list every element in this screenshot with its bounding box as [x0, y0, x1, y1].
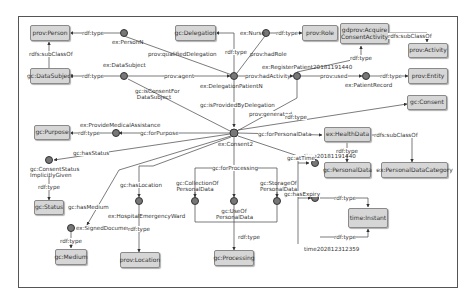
edge-label-subclassof-person: rdfs:subClassOf — [29, 51, 73, 57]
class-gc-datasubject[interactable]: gc:DataSubject — [30, 68, 70, 84]
class-gc-status[interactable]: gc:Status — [34, 200, 64, 215]
edge-label-rdf-type-processing: rdf:type — [238, 234, 260, 240]
class-time-instant[interactable]: time:Instant — [348, 208, 388, 228]
class-prov-location[interactable]: prov:Location — [120, 252, 160, 268]
node-signed — [68, 225, 75, 232]
class-ex-personaldatacategory[interactable]: ex:PersonalDataCategory — [381, 162, 448, 178]
class-gc-purpose[interactable]: gc:Purpose — [34, 125, 70, 140]
instance-use: gc:UseOf PersonalData — [216, 208, 252, 221]
class-gc-medium[interactable]: gc:Medium — [55, 249, 87, 265]
edge-label-rdf-type-medium: rdf:type — [60, 238, 82, 244]
node-patientrecord — [363, 73, 370, 80]
node-datasubject — [121, 73, 128, 80]
edge-label-rdf-type-personaldata: rdf:type — [336, 148, 358, 154]
edge-label-rdf-type-entity: rdf:type — [380, 73, 402, 79]
node-ward — [136, 198, 143, 205]
class-prov-entity[interactable]: prov:Entity — [408, 68, 448, 84]
instance-status: gc:ConsentStatus ImplicitlyGiven — [30, 166, 70, 179]
edge-label-rdf-type-datasubject: rdf:type — [82, 73, 104, 79]
instance-time2: time20281231235​9 — [304, 246, 359, 252]
edge-label-qualified-delegation: prov:qualifiedDelegation — [148, 51, 217, 57]
instance-patientrecord: ex:PatientRecord — [345, 82, 392, 88]
instance-delegation: ex:DelegationPatientN — [200, 83, 263, 89]
instance-ward: ex:HospitalEmergencyWard — [108, 213, 185, 219]
class-prov-person[interactable]: prov:Person — [30, 25, 70, 41]
edge-label-subclassof-activity: rdfs:subClassOf — [388, 33, 432, 39]
edge-label-rdf-type-time1: rdf:type — [334, 195, 356, 201]
node-consent2 — [230, 129, 238, 137]
edge-label-rdf-type-role: rdf:type — [276, 30, 298, 36]
node-personN — [121, 30, 128, 37]
edge-label-has-location: gc:hasLocation — [120, 182, 162, 188]
edge-label-rdf-type-consent: rdf:type — [285, 114, 307, 120]
edge-label-agent: prov:agent — [164, 73, 194, 79]
class-gdprov-acquire-consent-activity[interactable]: gdprov:Acquire ConsentActivity — [340, 23, 389, 44]
node-storage — [274, 198, 281, 205]
node-register — [294, 73, 301, 80]
edge-label-rdf-type-time2: rdf:type — [334, 234, 356, 240]
edge-label-rdf-type-person: rdf:type — [82, 30, 104, 36]
edge-label-rdf-type-purpose: rdf:type — [78, 130, 100, 136]
instance-personN: ex:PersonN — [112, 39, 144, 45]
node-delegation — [231, 73, 238, 80]
edge-label-used: prov:used — [320, 73, 348, 79]
edge-label-at-time: gc:atTime — [287, 155, 315, 161]
edge-label-for-personal-data: gc:forPersonalData — [258, 131, 311, 137]
edge-label-rdf-type-status: rdf:type — [38, 184, 60, 190]
instance-collection: gc:CollectionOf PersonalData — [176, 180, 214, 193]
node-provide — [113, 130, 120, 137]
edge-label-for-processing: gc:forProcessing — [212, 165, 258, 171]
edge-label-rdf-type-acquire: rdf:type — [350, 55, 372, 61]
class-prov-role[interactable]: prov:Role — [302, 25, 338, 41]
instance-signed: ex:SignedDocument — [76, 225, 133, 231]
edge-label-provided-by: gc:isProvidedByDelegation — [200, 102, 275, 108]
instance-nurse: ex:Nurse — [240, 30, 265, 36]
class-ex-healthdata[interactable]: ex:HealthData — [324, 127, 371, 142]
edge-label-has-medium: gc:hasMedium — [68, 204, 109, 210]
edge-label-subclassof-category: rdfs:subClassOf — [374, 132, 418, 138]
node-status — [46, 157, 53, 164]
node-use — [231, 198, 238, 205]
instance-provide: ex:ProvideMedicalAssistance — [80, 122, 161, 128]
instance-consent2: ex:Consent2 — [218, 141, 253, 147]
edge-label-has-status: gc:hasStatus — [73, 150, 109, 156]
edge-label-had-activity: prov:hadActivity — [245, 73, 290, 79]
class-gc-processing[interactable]: gc:Processing — [214, 250, 254, 266]
class-gc-delegation[interactable]: gc:Delegation — [175, 25, 216, 41]
class-gc-personaldata[interactable]: gc:PersonalData — [324, 162, 371, 178]
edge-label-had-role: prov:hadRole — [250, 51, 287, 57]
edge-label-is-consent-for: gc:isConsentFor DataSubject — [135, 88, 173, 101]
class-gc-consent[interactable]: gc:Consent — [407, 95, 447, 110]
edge-label-for-purpose: gc:forPurpose — [140, 130, 179, 136]
node-collection — [192, 198, 199, 205]
edge-label-rdf-type-location: rdf:type — [128, 226, 150, 232]
edge-label-rdf-type-delegation: rdf:type — [225, 49, 247, 55]
edge-label-has-expiry: gc:hasExpiry — [284, 191, 320, 197]
class-prov-activity[interactable]: prov:Activity — [408, 43, 448, 58]
instance-register: ex:RegisterPatient20181191440 — [262, 64, 352, 70]
instance-datasubject: ex:DataSubject — [103, 62, 146, 68]
